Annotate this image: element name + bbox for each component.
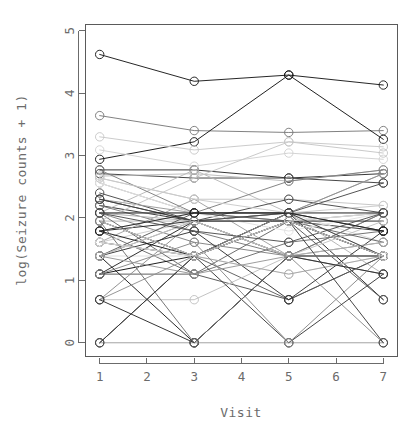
- trajectory-line: [100, 150, 384, 166]
- x-axis-tick-label: 4: [238, 369, 246, 384]
- y-axis-label: log(Seizure counts + 1): [14, 94, 29, 286]
- subject-trajectory: [95, 146, 387, 171]
- trajectory-line: [100, 75, 384, 159]
- subject-trajectory: [95, 339, 387, 347]
- x-axis-label: Visit: [220, 405, 262, 420]
- y-axis-tick-label: 3: [62, 152, 77, 160]
- trajectory-line: [100, 221, 384, 343]
- y-axis-tick-label: 2: [62, 214, 77, 222]
- x-axis-tick-label: 5: [285, 369, 293, 384]
- trajectory-line: [100, 231, 384, 274]
- y-axis-tick-label: 1: [62, 277, 77, 285]
- x-axis-tick-label: 1: [96, 369, 104, 384]
- subject-trajectory: [95, 133, 387, 155]
- subject-trajectory: [95, 111, 387, 136]
- trajectory-line: [100, 242, 384, 342]
- trajectory-line: [100, 256, 384, 274]
- x-axis-tick-label: 3: [190, 369, 198, 384]
- y-axis: 012345: [62, 27, 85, 347]
- subject-trajectory: [95, 50, 387, 89]
- y-axis-tick-label: 0: [62, 339, 77, 347]
- trajectory-line: [100, 54, 384, 85]
- seizure-spaghetti-plot-figure: 012345 1234567 Visit log(Seizure counts …: [0, 0, 415, 442]
- trajectory-line: [100, 221, 384, 343]
- trajectory-line: [100, 221, 384, 343]
- subject-trajectory: [95, 179, 387, 225]
- subject-trajectory: [95, 166, 387, 183]
- y-axis-tick-label: 5: [62, 27, 77, 35]
- trajectory-line: [100, 178, 384, 213]
- y-axis-tick-label: 4: [62, 89, 77, 97]
- x-axis: 1234567: [96, 358, 387, 384]
- plot-canvas: 012345 1234567 Visit log(Seizure counts …: [0, 0, 415, 442]
- x-axis-tick-label: 7: [380, 369, 388, 384]
- subject-trajectory: [95, 169, 387, 187]
- trajectory-line: [100, 170, 384, 178]
- series-layer: [95, 50, 387, 347]
- x-axis-tick-label: 6: [332, 369, 340, 384]
- plot-panel-box: [86, 25, 398, 357]
- trajectory-line: [100, 221, 384, 343]
- x-axis-tick-label: 2: [143, 369, 151, 384]
- trajectory-line: [100, 116, 384, 133]
- subject-trajectory: [95, 71, 387, 164]
